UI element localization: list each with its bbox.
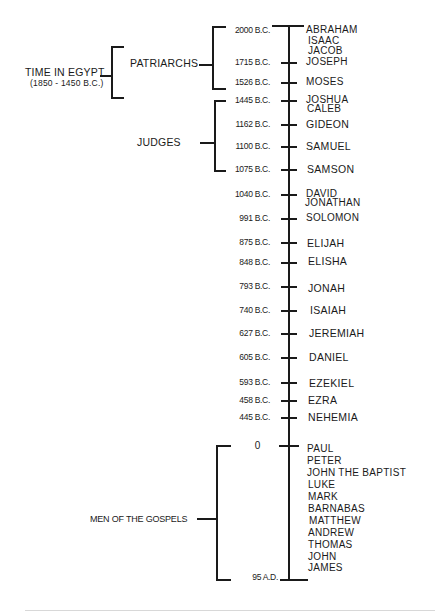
name-jonathan: JONATHAN <box>305 198 361 208</box>
name-nehemia: NEHEMIA <box>308 412 358 422</box>
name-james: JAMES <box>308 563 343 573</box>
egypt-bracket-top <box>111 46 124 48</box>
date-95ad: 95 A.D. <box>218 573 278 582</box>
tick-1075bc <box>281 169 297 171</box>
timeline-axis <box>288 25 290 581</box>
judges-bracket <box>214 100 216 171</box>
name-samuel: SAMUEL <box>306 141 351 151</box>
name-peter: PETER <box>307 456 342 466</box>
tick-0 <box>279 445 299 447</box>
tick-1715bc <box>281 62 297 64</box>
date-1040bc: 1040 B.C. <box>210 190 270 199</box>
name-samson: SAMSON <box>307 164 354 174</box>
date-605bc: 605 B.C. <box>210 353 270 362</box>
tick-991bc <box>281 218 297 220</box>
date-593bc: 593 B.C. <box>210 378 270 387</box>
date-2000bc: 2000 B.C. <box>210 26 270 35</box>
axis-bottom-cap <box>280 579 308 581</box>
egypt-bracket-bottom <box>111 97 124 99</box>
name-barnabas: BARNABAS <box>308 504 365 514</box>
date-627bc: 627 B.C. <box>210 329 270 338</box>
page-edge-divider <box>25 610 435 611</box>
date-793bc: 793 B.C. <box>210 282 270 291</box>
axis-top-cap <box>272 25 304 27</box>
date-740bc: 740 B.C. <box>210 306 270 315</box>
tick-793bc <box>281 286 297 288</box>
tick-1040bc <box>281 194 297 196</box>
name-solomon: SOLOMON <box>306 213 359 223</box>
gospels-connector <box>197 518 217 520</box>
gospels-bracket <box>216 445 218 580</box>
name-luke: LUKE <box>308 480 335 490</box>
name-john: JOHN <box>308 552 336 562</box>
tick-445bc <box>281 417 297 419</box>
name-elijah: ELIJAH <box>307 238 344 248</box>
name-jacob: JACOB <box>308 46 343 56</box>
date-1526bc: 1526 B.C. <box>210 78 270 87</box>
name-paul: PAUL <box>307 444 334 454</box>
name-mark: MARK <box>308 492 338 502</box>
egypt-label: TIME IN EGYPT <box>25 67 105 77</box>
date-848bc: 848 B.C. <box>210 258 270 267</box>
date-991bc: 991 B.C. <box>210 214 270 223</box>
name-abraham: ABRAHAM <box>306 25 358 35</box>
tick-875bc <box>281 242 297 244</box>
patriarchs-label: PATRIARCHS <box>130 58 198 68</box>
date-458bc: 458 B.C. <box>210 396 270 405</box>
tick-1162bc <box>281 124 297 126</box>
egypt-bracket <box>111 46 113 98</box>
name-matthew: MATTHEW <box>309 516 361 526</box>
name-andrew: ANDREW <box>308 528 354 538</box>
date-875bc: 875 B.C. <box>210 238 270 247</box>
name-daniel: DANIEL <box>309 352 349 362</box>
date-445bc: 445 B.C. <box>210 413 270 422</box>
egypt-date-range: (1850 - 1450 B.C.) <box>30 78 104 88</box>
name-john-the-baptist: JOHN THE BAPTIST <box>307 468 406 478</box>
date-1445bc: 1445 B.C. <box>210 96 270 105</box>
name-isaiah: ISAIAH <box>310 305 346 315</box>
tick-593bc <box>281 382 297 384</box>
name-joseph: JOSEPH <box>306 57 348 67</box>
tick-1526bc <box>281 82 297 84</box>
date-1715bc: 1715 B.C. <box>210 58 270 67</box>
date-0: 0 <box>200 441 260 450</box>
date-1075bc: 1075 B.C. <box>210 165 270 174</box>
name-moses: MOSES <box>306 77 344 87</box>
date-1162bc: 1162 B.C. <box>210 120 270 129</box>
name-thomas: THOMAS <box>308 540 353 550</box>
name-jonah: JONAH <box>308 283 345 293</box>
gospels-label: MEN OF THE GOSPELS <box>90 514 187 524</box>
date-1100bc: 1100 B.C. <box>210 142 270 151</box>
tick-1100bc <box>281 146 297 148</box>
name-ezra: EZRA <box>308 395 337 405</box>
tick-848bc <box>281 262 297 264</box>
tick-1445bc <box>281 100 297 102</box>
tick-458bc <box>281 400 297 402</box>
judges-label: JUDGES <box>137 137 181 147</box>
name-elisha: ELISHA <box>308 256 347 266</box>
name-gideon: GIDEON <box>306 119 349 129</box>
tick-627bc <box>281 333 297 335</box>
tick-605bc <box>281 357 297 359</box>
patriarchs-bracket-bottom <box>212 88 226 90</box>
name-caleb: CALEB <box>307 104 341 114</box>
name-jeremiah: JEREMIAH <box>309 328 365 338</box>
tick-740bc <box>281 310 297 312</box>
name-ezekiel: EZEKIEL <box>309 378 354 388</box>
